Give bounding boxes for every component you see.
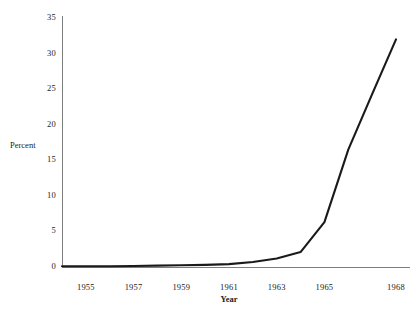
chart-container: 05101520253035 1955195719591961196319651…: [0, 0, 417, 318]
data-line-percent: [62, 39, 396, 266]
series-layer: [0, 0, 417, 318]
